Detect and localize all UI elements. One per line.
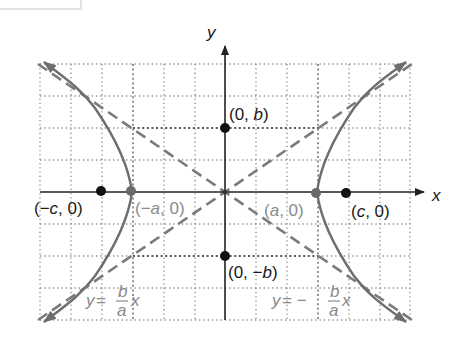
svg-text:y: y	[271, 291, 282, 310]
focus-right-label: (c, 0)	[351, 202, 390, 221]
y-axis-label: y	[206, 23, 217, 42]
co-vertex-top-dot	[220, 123, 230, 133]
svg-text:=: =	[96, 291, 106, 310]
hyperbola-diagram: y x (0, b) (0, −b) (−c, 0) (c, 0) (−a, 0…	[0, 0, 468, 341]
vertex-left-label: (−a, 0)	[135, 199, 185, 218]
svg-text:b: b	[330, 282, 339, 301]
right-branch-upper	[317, 62, 406, 192]
vertex-right-label: (a, 0)	[264, 201, 304, 220]
svg-text:b: b	[118, 282, 127, 301]
co-vertex-bottom-dot	[220, 251, 230, 261]
svg-text:x: x	[341, 291, 351, 310]
svg-text:y: y	[85, 291, 96, 310]
asymptote-positive-label: y = b a x	[85, 282, 140, 320]
svg-text:= −: = −	[282, 291, 307, 310]
co-vertex-top-label: (0, b)	[229, 105, 269, 124]
co-vertex-bottom-label: (0, −b)	[228, 263, 278, 282]
center-dot	[223, 190, 227, 194]
left-branch-upper	[44, 62, 132, 192]
x-axis-label: x	[431, 186, 441, 205]
focus-left-label: (−c, 0)	[34, 199, 83, 218]
vertex-right-dot	[311, 188, 321, 198]
svg-text:x: x	[130, 291, 140, 310]
focus-left-dot	[96, 186, 106, 196]
vertex-left-dot	[126, 186, 136, 196]
svg-text:a: a	[117, 301, 126, 320]
focus-right-dot	[341, 188, 351, 198]
svg-text:a: a	[329, 301, 338, 320]
